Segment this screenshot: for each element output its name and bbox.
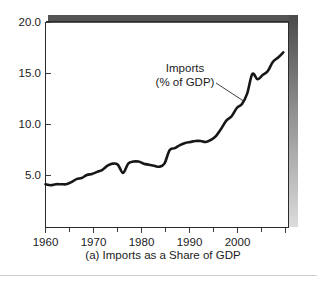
- y-tick-label-10: 10.0: [19, 118, 41, 130]
- x-tick-label-1980: 1980: [129, 236, 155, 248]
- y-tick-label-5: 5.0: [25, 169, 41, 181]
- x-tick-label-1970: 1970: [81, 236, 107, 248]
- x-tick-label-2000: 2000: [225, 236, 251, 248]
- imports-share-of-gdp-chart: 20.0 15.0 10.0 5.0 1960 1970 1980 1990 2…: [0, 0, 317, 283]
- figure-container: 20.0 15.0 10.0 5.0 1960 1970 1980 1990 2…: [0, 0, 317, 283]
- y-tick-label-15: 15.0: [19, 67, 41, 79]
- figure-caption: (a) Imports as a Share of GDP: [85, 249, 241, 261]
- right-shadow-bar: [289, 15, 298, 227]
- x-tick-label-1990: 1990: [177, 236, 203, 248]
- annotation-label-line2: (% of GDP): [156, 76, 215, 88]
- y-tick-label-20: 20.0: [19, 16, 41, 28]
- annotation-label-line1: Imports: [166, 62, 205, 74]
- x-tick-label-1960: 1960: [33, 236, 59, 248]
